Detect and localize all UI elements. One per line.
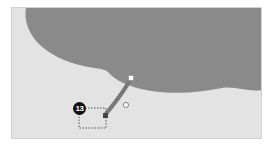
step-number-badge: 13 [73, 102, 86, 115]
drawing-layer [0, 0, 267, 150]
anchor-handle[interactable] [103, 113, 108, 118]
tail-tip-handle[interactable] [129, 76, 134, 81]
cloud-callout-shape[interactable] [25, 8, 262, 93]
callout-tail[interactable] [105, 78, 131, 115]
tail-adjust-handle[interactable] [123, 102, 128, 107]
